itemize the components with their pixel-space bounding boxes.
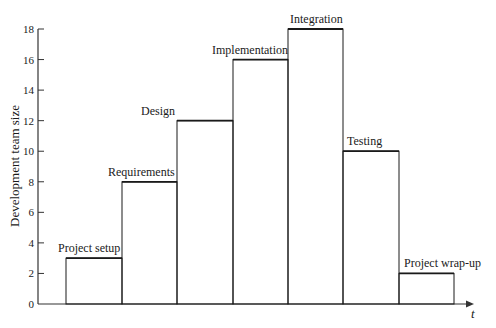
y-tick-label: 0	[29, 298, 35, 310]
team-size-step-chart: 024681012141618 Project setupRequirement…	[0, 0, 496, 328]
y-tick-label: 16	[23, 54, 35, 66]
y-axis: 024681012141618	[23, 23, 44, 310]
y-tick-label: 4	[29, 237, 35, 249]
phase-step	[399, 273, 454, 304]
phase-labels: Project setupRequirementsDesignImplement…	[58, 12, 481, 270]
phase-step	[66, 258, 122, 304]
x-axis-label: t	[471, 306, 475, 321]
phase-step	[233, 60, 288, 304]
phase-step	[343, 151, 399, 304]
phase-label: Requirements	[108, 165, 175, 179]
y-tick-label: 12	[23, 115, 34, 127]
y-tick-label: 10	[23, 145, 35, 157]
phase-step	[288, 29, 343, 304]
phase-label: Implementation	[212, 43, 288, 57]
phase-label: Project wrap-up	[404, 256, 481, 270]
phase-step	[122, 182, 177, 304]
phase-label: Testing	[347, 134, 382, 148]
y-tick-label: 6	[29, 206, 35, 218]
y-tick-label: 2	[29, 267, 35, 279]
chart-canvas: 024681012141618 Project setupRequirement…	[0, 0, 496, 328]
y-axis-label: Development team size	[7, 105, 22, 227]
y-tick-label: 14	[23, 84, 35, 96]
y-tick-label: 8	[29, 176, 35, 188]
phase-label: Integration	[290, 12, 343, 26]
y-tick-label: 18	[23, 23, 35, 35]
phase-label: Project setup	[58, 241, 120, 255]
phase-step	[177, 121, 233, 304]
phase-label: Design	[141, 104, 175, 118]
